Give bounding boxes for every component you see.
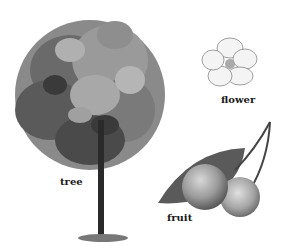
tree-trunk [98,120,104,238]
fruit-label: fruit [167,212,192,223]
flower-image [202,38,257,86]
tree-foliage [15,20,165,170]
illustration-canvas [0,0,291,251]
cherry-front [182,164,228,210]
fruit-image [158,122,270,217]
flower-label: flower [221,94,255,105]
tree-grass [78,234,128,242]
tree-label: tree [60,176,83,187]
tree-image [15,20,165,242]
